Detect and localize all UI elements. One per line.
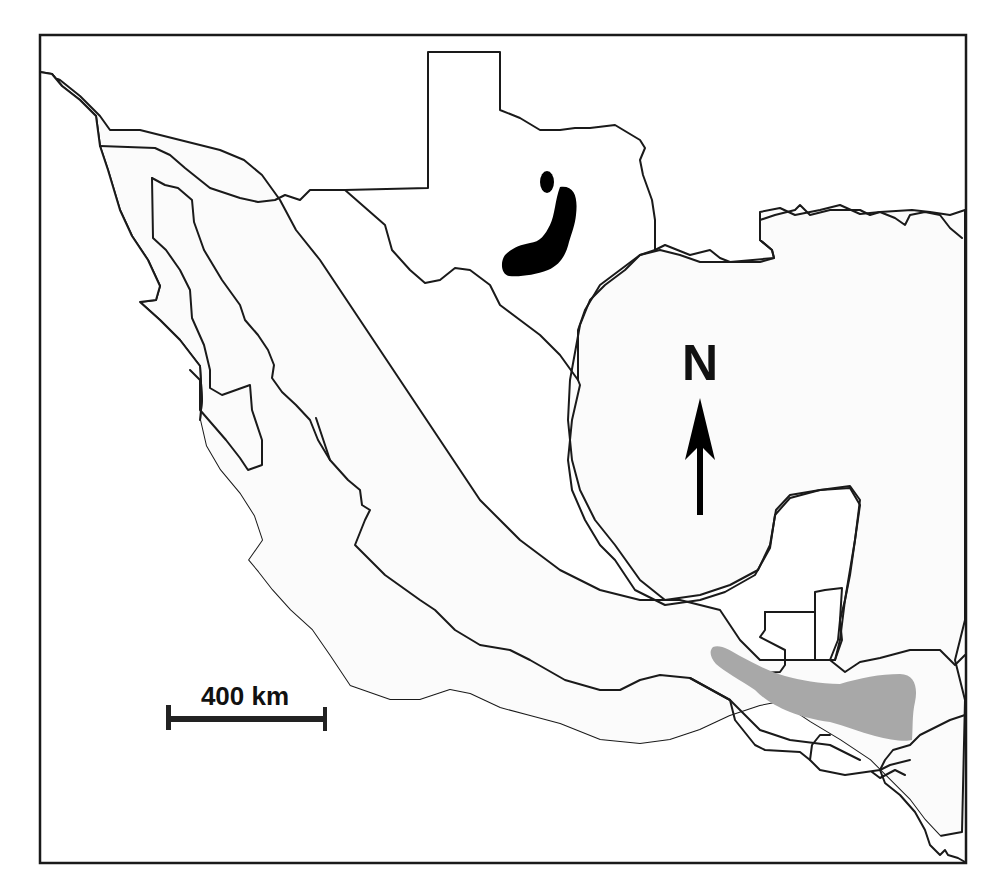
belize-border bbox=[815, 588, 842, 660]
texas-outline bbox=[345, 52, 655, 250]
range-map: N 400 km bbox=[0, 0, 1006, 873]
north-arrow-label: N bbox=[682, 335, 718, 391]
scale-bar-line bbox=[168, 716, 325, 722]
northern-range-outlier bbox=[540, 171, 554, 193]
scale-bar-left-tick bbox=[166, 705, 171, 730]
northern-range bbox=[502, 187, 577, 276]
scale-bar-right-tick bbox=[323, 707, 327, 731]
scale-bar-label: 400 km bbox=[201, 681, 289, 711]
